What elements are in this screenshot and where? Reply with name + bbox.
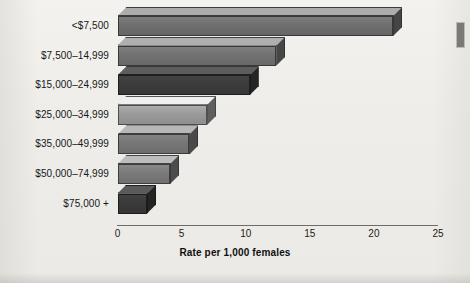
x-tick-20: 20 (368, 228, 379, 239)
bar-3 (118, 75, 250, 95)
y-axis-label-5: $35,000–49,999 (35, 139, 109, 149)
y-axis-category-labels: <$7,500$7,500–14,999$15,000–24,999$25,00… (0, 0, 113, 227)
x-tick-25: 25 (432, 228, 443, 239)
bar-front-face (118, 105, 208, 125)
bar-top-face (118, 125, 199, 134)
chart-figure: <$7,500$7,500–14,999$15,000–24,999$25,00… (0, 0, 470, 283)
bar-top-face (118, 7, 403, 16)
y-axis-label-3: $15,000–24,999 (35, 80, 109, 90)
x-axis-title: Rate per 1,000 females (0, 247, 470, 258)
bar-1 (118, 16, 394, 36)
bar-front-face (118, 46, 277, 66)
bar-front-face (118, 134, 190, 154)
bar-4 (118, 105, 208, 125)
plot-area: <$7,500$7,500–14,999$15,000–24,999$25,00… (0, 0, 470, 283)
bar-top-face (118, 66, 259, 75)
bar-top-face (118, 96, 217, 105)
x-tick-15: 15 (304, 228, 315, 239)
x-axis-line (117, 225, 438, 226)
bar-2 (118, 46, 277, 66)
bar-5 (118, 134, 190, 154)
y-axis-label-4: $25,000–34,999 (35, 110, 109, 120)
bar-front-face (118, 16, 394, 36)
bar-front-face (118, 194, 147, 214)
x-tick-0: 0 (115, 228, 121, 239)
bar-top-face (118, 37, 286, 46)
bar-top-face (118, 155, 180, 164)
x-tick-10: 10 (240, 228, 251, 239)
y-axis-label-2: $7,500–14,999 (41, 51, 109, 61)
x-tick-5: 5 (179, 228, 185, 239)
page-edge-artifact (456, 22, 465, 48)
bar-7 (118, 194, 147, 214)
y-axis-label-1: <$7,500 (72, 21, 109, 31)
y-axis-label-7: $75,000 + (63, 199, 109, 209)
bar-front-face (118, 75, 250, 95)
bar-front-face (118, 164, 171, 184)
y-axis-label-6: $50,000–74,999 (35, 169, 109, 179)
bar-6 (118, 164, 171, 184)
